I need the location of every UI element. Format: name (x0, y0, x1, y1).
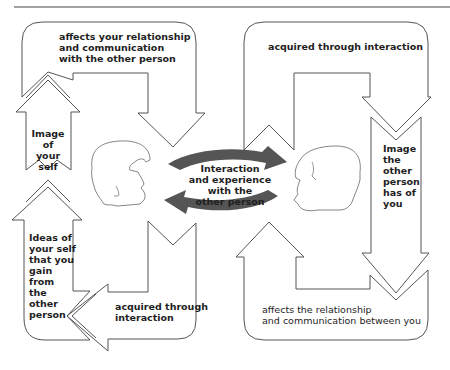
label-line: your self (29, 243, 76, 254)
right-head-outline (294, 146, 360, 211)
label-line: with the (180, 185, 280, 196)
right-bottom-loop-label: affects the relationship and communicati… (262, 304, 421, 326)
label-line: affects your relationship (59, 31, 191, 42)
label-line: and communication (59, 42, 191, 53)
label-line: Image of (28, 128, 68, 150)
label-line: you (383, 198, 420, 209)
label-line: the (29, 287, 76, 298)
left-head-outline (92, 141, 150, 206)
label-line: acquired through interaction (268, 41, 423, 52)
label-line: has of (383, 187, 420, 198)
right-top-loop-label: acquired through interaction (268, 41, 423, 52)
left-top-loop-label: affects your relationship and communicat… (59, 31, 191, 64)
label-line: interaction (115, 312, 208, 323)
label-line: other (383, 165, 420, 176)
label-line: and communication between you (262, 315, 421, 326)
label-line: from (29, 276, 76, 287)
label-line: Image (383, 143, 420, 154)
label-line: Interaction (180, 163, 280, 174)
label-line: person (29, 309, 76, 320)
label-line: Ideas of (29, 232, 76, 243)
right-column-label: Image the other person has of you (383, 143, 420, 209)
label-line: person (383, 176, 420, 187)
label-line: other (29, 298, 76, 309)
label-line: that you (29, 254, 76, 265)
left-bottom-loop-label: acquired through interaction (115, 301, 208, 323)
center-interaction-label: Interaction and experience with the othe… (180, 163, 280, 207)
label-line: other person (180, 196, 280, 207)
label-line: your self (28, 150, 68, 172)
label-line: affects the relationship (262, 304, 421, 315)
label-line: with the other person (59, 53, 191, 64)
left-lower-column-label: Ideas of your self that you gain from th… (29, 232, 76, 320)
label-line: and experience (180, 174, 280, 185)
label-line: the (383, 154, 420, 165)
left-upper-column-label: Image of your self (28, 128, 68, 172)
label-line: acquired through (115, 301, 208, 312)
label-line: gain (29, 265, 76, 276)
